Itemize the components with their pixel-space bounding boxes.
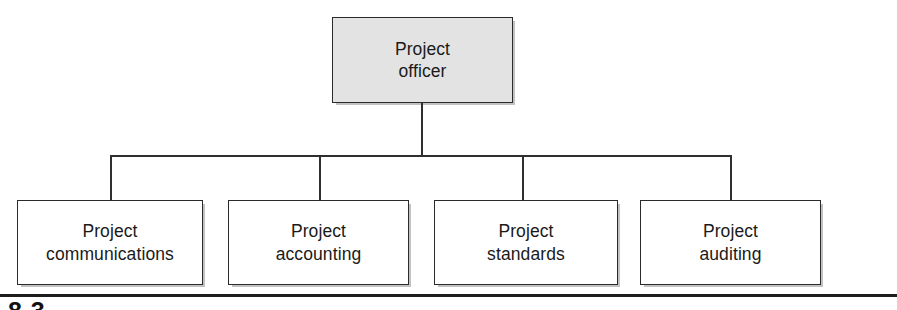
node-label: Project officer xyxy=(389,38,456,83)
footer-caption: 8.3 xyxy=(8,299,128,310)
connector-drop-project-communications xyxy=(110,155,112,201)
node-label: Project auditing xyxy=(693,220,767,265)
connector-root-stem xyxy=(421,103,423,156)
node-project-auditing[interactable]: Project auditing xyxy=(640,200,821,285)
node-project-communications[interactable]: Project communications xyxy=(17,200,203,285)
footer-divider xyxy=(0,294,897,297)
connector-horizontal-bus xyxy=(110,155,731,157)
connector-drop-project-auditing xyxy=(730,155,732,201)
node-project-officer[interactable]: Project officer xyxy=(332,17,513,103)
node-project-standards[interactable]: Project standards xyxy=(434,200,618,285)
node-label: Project standards xyxy=(481,220,571,265)
connector-drop-project-accounting xyxy=(319,155,321,201)
organizational-chart: Project officer Project communications P… xyxy=(0,0,897,310)
connector-drop-project-standards xyxy=(522,155,524,201)
node-project-accounting[interactable]: Project accounting xyxy=(228,200,409,285)
node-label: Project accounting xyxy=(270,220,368,265)
node-label: Project communications xyxy=(40,220,180,265)
